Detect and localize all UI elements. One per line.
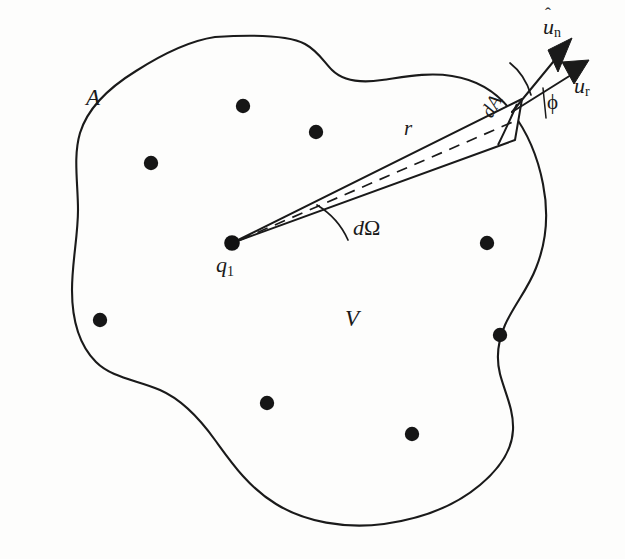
u-r-symbol: ˆu bbox=[574, 75, 585, 97]
u-n-subscript: n bbox=[554, 25, 561, 40]
unit-normal-label: ˆun bbox=[543, 16, 561, 40]
unit-radial-label: ˆur bbox=[574, 75, 590, 99]
charge-dot bbox=[144, 156, 158, 170]
omega-symbol: Ω bbox=[364, 215, 380, 240]
hat-accent-icon: ˆ bbox=[545, 5, 551, 23]
source-charge-dot bbox=[224, 235, 240, 251]
distance-label-r: r bbox=[404, 118, 412, 139]
source-charge-label: q1 bbox=[216, 254, 234, 279]
u-r-shaft bbox=[512, 75, 571, 112]
charge-dot bbox=[493, 328, 507, 342]
u-n-symbol: ˆu bbox=[543, 16, 554, 38]
charge-symbol: q bbox=[216, 252, 227, 277]
solid-angle-label: dΩ bbox=[353, 217, 380, 239]
charge-dot bbox=[93, 313, 107, 327]
hat-accent-icon: ˆ bbox=[576, 64, 582, 82]
charge-dot bbox=[309, 125, 323, 139]
charge-dot bbox=[405, 427, 419, 441]
charge-dot bbox=[480, 236, 494, 250]
charge-dot bbox=[260, 396, 274, 410]
u-r-subscript: r bbox=[585, 84, 590, 99]
volume-label-V: V bbox=[345, 307, 359, 330]
angle-label-phi: ϕ bbox=[547, 92, 558, 113]
charge-dot bbox=[236, 99, 250, 113]
closed-surface-outline bbox=[72, 36, 546, 526]
diagram-svg bbox=[0, 0, 625, 559]
vector-angle-sweep-arc bbox=[510, 63, 531, 95]
solid-angle-d: d bbox=[353, 215, 364, 240]
surface-label-A: A bbox=[86, 86, 100, 109]
charge-subscript: 1 bbox=[227, 264, 234, 279]
figure-canvas: A V r q1 dΩ ϕ dA ˆun ˆur bbox=[0, 0, 625, 559]
